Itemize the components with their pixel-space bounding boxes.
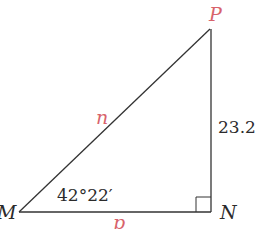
vertex-label-n: N <box>220 203 237 222</box>
side-label-hypotenuse: n <box>96 108 108 127</box>
right-triangle-diagram: P M N n 23.2 p 42°22′ <box>0 0 256 229</box>
right-angle-marker <box>196 197 211 212</box>
side-label-vertical: 23.2 <box>218 119 256 136</box>
vertex-label-p: P <box>209 5 222 24</box>
side-mp-hypotenuse <box>19 29 210 212</box>
triangle-svg <box>0 0 256 229</box>
side-label-base: p <box>113 213 125 229</box>
vertex-label-m: M <box>0 203 16 222</box>
angle-label-m: 42°22′ <box>57 187 113 204</box>
